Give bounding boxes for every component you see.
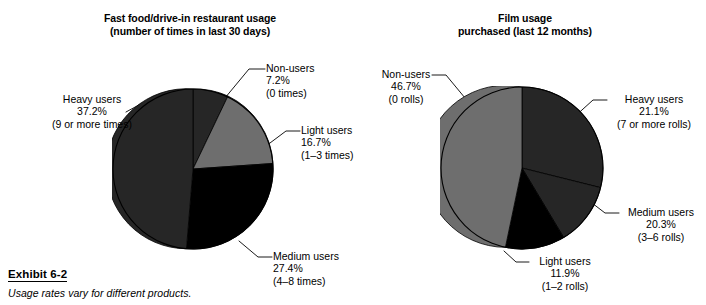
callout-pct: 46.7% [378, 80, 434, 92]
callout-pct: 37.2% [24, 105, 160, 117]
pie-slice-non-users [440, 86, 522, 247]
callout-pct: 27.4% [273, 262, 339, 274]
callout-detail: (1–3 times) [301, 149, 354, 161]
chart-title-film: Film usage purchased (last 12 months) [420, 12, 630, 38]
callout-name: Heavy users [24, 93, 160, 105]
exhibit-figure: Fast food/drive-in restaurant usage (num… [0, 0, 706, 305]
chart-title-fast-food: Fast food/drive-in restaurant usage (num… [70, 12, 310, 38]
callout-right-non-users: Non-users 46.7% (0 rolls) [378, 68, 434, 105]
callout-name: Light users [301, 124, 354, 136]
callout-name: Non-users [266, 62, 314, 74]
callout-left-non-users: Non-users 7.2% (0 times) [266, 62, 314, 99]
callout-name: Heavy users [606, 93, 702, 105]
chart-title-line-2: (number of times in last 30 days) [70, 25, 310, 38]
callout-detail: (7 or more rolls) [606, 118, 702, 130]
chart-title-line-1: Film usage [420, 12, 630, 25]
callout-pct: 11.9% [529, 267, 601, 279]
callout-name: Medium users [618, 206, 704, 218]
callout-name: Light users [529, 255, 601, 267]
callout-pct: 7.2% [266, 74, 314, 86]
callout-left-heavy-users: Heavy users 37.2% (9 or more times) [24, 93, 160, 130]
chart-title-line-1: Fast food/drive-in restaurant usage [70, 12, 310, 25]
callout-right-medium-users: Medium users 20.3% (3–6 rolls) [618, 206, 704, 243]
chart-title-line-2: purchased (last 12 months) [420, 25, 630, 38]
callout-name: Medium users [273, 250, 339, 262]
callout-detail: (0 rolls) [378, 93, 434, 105]
pie-slice-medium-users [186, 163, 273, 249]
callout-detail: (0 times) [266, 87, 314, 99]
callout-detail: (1–2 rolls) [529, 280, 601, 292]
leader-right-light-users [504, 251, 529, 262]
callout-pct: 16.7% [301, 136, 354, 148]
pie-chart-film [440, 86, 604, 250]
callout-name: Non-users [378, 68, 434, 80]
exhibit-block: Exhibit 6-2 Usage rates vary for differe… [8, 264, 192, 300]
callout-left-light-users: Light users 16.7% (1–3 times) [301, 124, 354, 161]
callout-right-heavy-users: Heavy users 21.1% (7 or more rolls) [606, 93, 702, 130]
callout-pct: 21.1% [606, 105, 702, 117]
callout-detail: (9 or more times) [24, 118, 160, 130]
exhibit-label: Exhibit 6-2 [8, 267, 67, 282]
callout-detail: (4–8 times) [273, 275, 339, 287]
callout-left-medium-users: Medium users 27.4% (4–8 times) [273, 250, 339, 287]
callout-detail: (3–6 rolls) [618, 231, 704, 243]
callout-pct: 20.3% [618, 218, 704, 230]
callout-right-light-users: Light users 11.9% (1–2 rolls) [529, 255, 601, 292]
exhibit-caption: Usage rates vary for different products. [8, 286, 192, 300]
